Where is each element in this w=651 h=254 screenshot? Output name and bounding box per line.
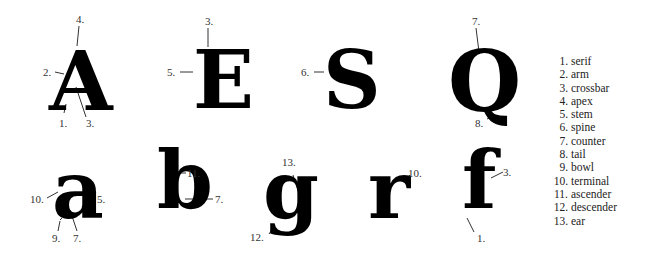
glyph-r: r [368, 150, 410, 230]
legend-item-serif: 1.serif [553, 55, 617, 68]
callout-a-stem: 5. [97, 194, 105, 205]
callout-b-ascender: 11. [187, 168, 200, 179]
legend-item-ear: 13.ear [553, 215, 617, 228]
glyph-Q: Q [448, 40, 521, 124]
callout-a-bowl: 9. [52, 233, 60, 244]
callout-g-ear: 13. [282, 157, 296, 168]
legend-item-arm: 2.arm [553, 68, 617, 81]
legend-item-apex: 4.apex [553, 95, 617, 108]
callout-A-serif: 1. [59, 118, 67, 129]
callout-E-stem: 5. [167, 67, 175, 78]
legend-item-descender: 12.descender [553, 201, 617, 214]
legend: 1.serif 2.arm 3.crossbar 4.apex 5.stem 6… [553, 55, 617, 228]
callout-r-terminal: 10. [408, 168, 422, 179]
legend-item-bowl: 9.bowl [553, 161, 617, 174]
callout-A-arm: 2. [43, 67, 51, 78]
glyph-E: E [193, 40, 254, 120]
callout-Q-counter: 7. [472, 16, 480, 27]
legend-item-tail: 8.tail [553, 148, 617, 161]
callout-g-descender: 12. [250, 232, 264, 243]
glyph-A: A [49, 40, 113, 122]
callout-Q-tail: 8. [475, 118, 483, 129]
callout-a-terminal: 10. [30, 194, 44, 205]
glyph-b: b [157, 140, 213, 220]
legend-item-terminal: 10.terminal [553, 175, 617, 188]
callout-S-spine: 6. [301, 67, 309, 78]
callout-f-crossbar: 3. [503, 167, 511, 178]
legend-item-counter: 7.counter [553, 135, 617, 148]
legend-item-ascender: 11.ascender [553, 188, 617, 201]
callout-E-crossbar: 3. [205, 16, 213, 27]
callout-A-crossbar: 3. [86, 118, 94, 129]
legend-item-spine: 6.spine [553, 121, 617, 134]
callout-b-counter: 7. [215, 194, 223, 205]
legend-item-stem: 5.stem [553, 108, 617, 121]
legend-item-crossbar: 3.crossbar [553, 82, 617, 95]
callout-a-counter: 7. [73, 233, 81, 244]
glyph-a: a [52, 150, 104, 230]
callout-A-apex: 4. [76, 14, 84, 25]
glyph-f: f [462, 140, 496, 220]
callout-f-serif: 1. [477, 233, 485, 244]
glyph-S: S [323, 40, 381, 120]
